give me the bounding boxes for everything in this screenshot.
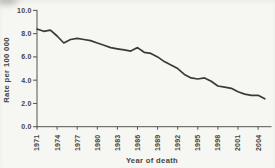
y-tick-label: 6.0: [21, 53, 31, 60]
mortality-rate-line-chart: 0.02.04.06.08.010.0197119741977198019831…: [0, 0, 275, 168]
data-series: [37, 29, 265, 99]
x-tick-label: 1989: [154, 135, 161, 151]
x-tick-label: 1995: [194, 135, 201, 151]
y-tick-label: 8.0: [21, 30, 31, 37]
y-tick-label: 0.0: [21, 123, 31, 130]
x-tick-label: 1971: [33, 135, 40, 151]
tick-labels: 0.02.04.06.08.010.0197119741977198019831…: [17, 7, 261, 151]
x-axis-title: Year of death: [126, 156, 178, 165]
x-tick-label: 2004: [255, 135, 262, 151]
x-tick-label: 1992: [174, 135, 181, 151]
x-tick-label: 2001: [234, 135, 241, 151]
x-tick-label: 1977: [74, 135, 81, 151]
figure-canvas: 0.02.04.06.08.010.0197119741977198019831…: [0, 0, 275, 168]
x-tick-label: 1986: [134, 135, 141, 151]
x-tick-label: 1983: [114, 135, 121, 151]
x-tick-label: 1998: [214, 135, 221, 151]
y-tick-label: 2.0: [21, 100, 31, 107]
x-tick-label: 1974: [54, 135, 61, 151]
x-tick-label: 1980: [94, 135, 101, 151]
mortality-rate-line: [37, 29, 265, 99]
y-axis-title: Rate per 100 000: [2, 37, 11, 103]
axes: [37, 10, 272, 127]
y-tick-label: 4.0: [21, 77, 31, 84]
tick-marks: [33, 10, 258, 129]
y-tick-label: 10.0: [17, 7, 31, 14]
